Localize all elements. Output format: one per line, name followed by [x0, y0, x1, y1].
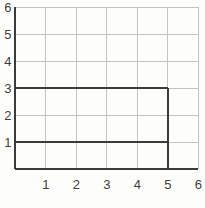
x-tick-label: 3 [103, 178, 110, 191]
y-tick-label: 1 [0, 136, 11, 149]
y-tick-label: 2 [0, 109, 11, 122]
y-tick-label: 3 [0, 82, 11, 95]
x-tick-label: 5 [164, 178, 171, 191]
x-tick-label: 4 [134, 178, 141, 191]
x-tick-label: 1 [42, 178, 49, 191]
coordinate-grid-figure: 6 5 4 3 2 1 1 2 3 4 5 6 [0, 0, 205, 208]
y-tick-label: 4 [0, 55, 11, 68]
x-tick-label: 6 [195, 178, 202, 191]
y-tick-label: 6 [0, 1, 11, 14]
y-tick-label: 5 [0, 28, 11, 41]
x-tick-label: 2 [73, 178, 80, 191]
